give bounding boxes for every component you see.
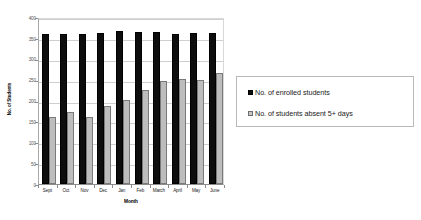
y-axis-tick-mark	[35, 39, 38, 40]
bar-absent-april	[179, 79, 186, 184]
x-axis-tick-mark	[150, 185, 151, 188]
legend-entry-enrolled: No. of enrolled students	[248, 88, 330, 97]
x-axis-tick-mark	[224, 185, 225, 188]
y-axis-tick-mark	[35, 60, 38, 61]
bar-enrolled-june	[209, 33, 216, 184]
bar-absent-oct	[67, 112, 74, 184]
x-axis-tick-label: June	[198, 188, 232, 194]
y-axis-tick-label: 0	[6, 183, 36, 188]
y-axis-tick-mark	[35, 122, 38, 123]
bar-chart: 050100150200250300350400 No. of Students…	[0, 0, 232, 220]
bar-enrolled-nov	[79, 34, 86, 184]
y-axis-tick-mark	[35, 102, 38, 103]
legend-label-enrolled: No. of enrolled students	[255, 89, 330, 97]
bar-enrolled-oct	[60, 34, 67, 184]
x-axis-tick-mark	[94, 185, 95, 188]
bar-absent-sept	[49, 117, 56, 184]
legend-swatch-icon-absent	[248, 111, 253, 116]
x-axis-tick-mark	[168, 185, 169, 188]
bar-enrolled-feb	[135, 32, 142, 184]
x-axis-tick-mark	[57, 185, 58, 188]
y-axis-tick-mark	[35, 143, 38, 144]
bar-enrolled-jan	[116, 31, 123, 184]
x-axis-tick-mark	[187, 185, 188, 188]
x-axis-title: Month	[38, 199, 224, 205]
y-axis-tick-label: 400	[6, 16, 36, 21]
x-axis-tick-mark	[75, 185, 76, 188]
y-axis-tick-mark	[35, 164, 38, 165]
bar-absent-feb	[142, 90, 149, 184]
bar-absent-jan	[123, 100, 130, 184]
bar-absent-nov	[86, 117, 93, 184]
y-axis-tick-label: 300	[6, 57, 36, 62]
y-axis-tick-mark	[35, 18, 38, 19]
y-axis-tick-label: 350	[6, 37, 36, 42]
legend-swatch-icon-enrolled	[248, 90, 253, 95]
y-axis-tick-mark	[35, 81, 38, 82]
x-axis-tick-mark	[112, 185, 113, 188]
x-axis-tick-mark	[205, 185, 206, 188]
legend-entry-absent: No. of students absent 5+ days	[248, 109, 353, 118]
chart-screenshot: 050100150200250300350400 No. of Students…	[0, 0, 421, 220]
bar-enrolled-april	[172, 34, 179, 184]
bar-enrolled-sept	[42, 34, 49, 184]
x-axis-tick-mark	[131, 185, 132, 188]
bar-absent-june	[216, 73, 223, 184]
y-axis-tick-label: 50	[6, 162, 36, 167]
bar-enrolled-march	[153, 32, 160, 184]
bar-enrolled-dec	[97, 33, 104, 184]
y-axis-title: No. of Students	[7, 71, 13, 127]
legend: No. of enrolled students No. of students…	[236, 76, 414, 127]
legend-label-absent: No. of students absent 5+ days	[255, 110, 353, 118]
bar-absent-march	[160, 81, 167, 184]
y-axis-tick-label: 100	[6, 141, 36, 146]
bar-absent-dec	[104, 106, 111, 184]
x-axis-tick-mark	[38, 185, 39, 188]
bar-absent-may	[197, 80, 204, 184]
bar-enrolled-may	[190, 33, 197, 184]
